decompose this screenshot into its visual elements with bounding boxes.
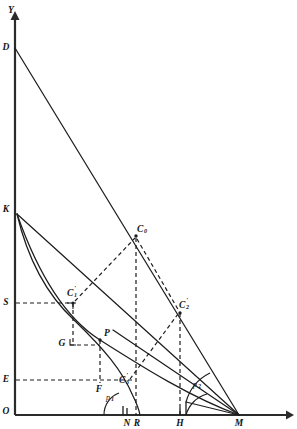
label-point-F: F: [95, 384, 103, 394]
label-point-M: M: [234, 418, 244, 428]
x-axis-ticks: [123, 402, 186, 415]
dot-C2: [178, 311, 181, 314]
label-C3-prime: ': [126, 371, 128, 379]
label-angle-phi2: p 2: [192, 380, 201, 389]
label-phi2-letter: p: [192, 380, 197, 389]
label-C2-letter: C: [179, 300, 186, 310]
label-point-E: E: [2, 374, 9, 384]
label-point-P: P: [104, 328, 110, 338]
label-point-C1: C 1 ': [67, 284, 77, 298]
dash-C0-to-C2: [137, 239, 179, 311]
dot-P: [98, 338, 101, 341]
label-C1-subscript: 1: [74, 292, 77, 298]
label-point-D: D: [2, 42, 10, 52]
label-point-S: S: [3, 297, 8, 307]
x-axis-arrow: [286, 411, 294, 420]
axes-group: [11, 11, 295, 420]
dash-C1-to-C0: [75, 238, 135, 301]
label-phi1-subscript: 1: [111, 396, 114, 402]
label-point-C2: C 2 ': [179, 296, 189, 310]
label-C1-letter: C: [67, 288, 74, 298]
label-point-N: N: [123, 418, 132, 428]
solid-lines-group: [15, 48, 239, 415]
label-C3-letter: C: [119, 375, 126, 385]
label-C0-subscript: 0: [144, 228, 147, 234]
labels-group: Y D K S E O C 0 C 1 ' C 2 ': [2, 5, 244, 428]
dot-C0: [134, 234, 137, 237]
label-phi2-subscript: 2: [197, 383, 201, 389]
label-angle-phi1: p 1: [105, 393, 114, 402]
label-point-K: K: [2, 204, 10, 214]
label-point-C0: C 0: [137, 224, 147, 234]
ray-M-through-C3: [113, 330, 239, 415]
label-C1-prime: ': [74, 284, 76, 292]
label-point-O: O: [3, 406, 10, 416]
diagram-canvas: Y D K S E O C 0 C 1 ' C 2 ': [0, 0, 297, 429]
label-C2-subscript: 2: [185, 304, 189, 310]
label-point-H: H: [175, 418, 184, 428]
line-D-to-M: [15, 48, 239, 415]
label-point-R: R: [133, 418, 140, 428]
geometry-figure: Y D K S E O C 0 C 1 ' C 2 ': [0, 0, 297, 429]
label-C3-subscript: 3: [125, 379, 129, 385]
right-angle-marks: [67, 303, 76, 345]
dot-C1: [71, 301, 74, 304]
label-C2-prime: ': [186, 296, 188, 304]
label-point-G: G: [59, 338, 66, 348]
label-phi1-letter: p: [105, 393, 110, 402]
label-C0-letter: C: [137, 224, 144, 234]
